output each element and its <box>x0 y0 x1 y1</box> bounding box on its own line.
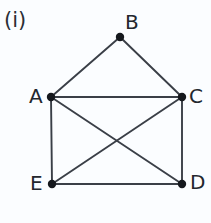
vertex-node-b <box>116 33 124 41</box>
vertex-node-e <box>48 180 56 188</box>
edge-layer <box>51 37 182 184</box>
vertex-layer <box>47 33 186 188</box>
vertex-label-a: A <box>29 86 43 106</box>
vertex-label-d: D <box>190 172 205 192</box>
edge-b-c <box>120 37 182 97</box>
vertex-label-c: C <box>189 86 203 106</box>
vertex-label-b: B <box>125 12 139 32</box>
figure-caption: (i) <box>4 9 26 31</box>
figure-container: (i) A B C D E <box>0 0 211 223</box>
vertex-node-a <box>47 93 55 101</box>
vertex-node-c <box>178 93 186 101</box>
edge-a-b <box>51 37 120 97</box>
vertex-label-e: E <box>30 173 43 193</box>
vertex-node-d <box>178 180 186 188</box>
edge-a-e <box>51 97 52 184</box>
